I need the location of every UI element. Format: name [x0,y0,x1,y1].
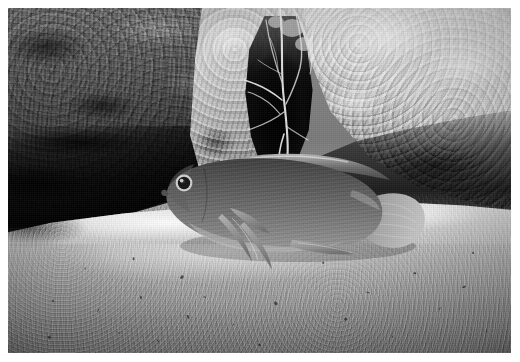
page-root [0,0,520,362]
fish [8,8,511,353]
fish-eye-glint [180,179,184,183]
photograph [8,8,511,353]
fish-eye [178,177,190,189]
